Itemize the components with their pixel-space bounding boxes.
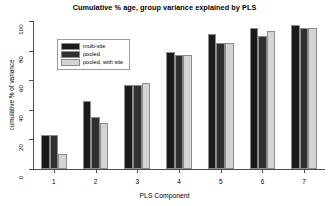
- x-tick-label: 2: [86, 178, 106, 185]
- x-axis-label: PLS Component: [0, 192, 329, 199]
- legend-item: pooled: [61, 51, 126, 58]
- legend-swatch-icon: [61, 43, 80, 50]
- legend-swatch-icon: [61, 59, 80, 66]
- y-tick-mark: [29, 169, 33, 170]
- bar: [258, 36, 267, 169]
- x-tick-label: 3: [127, 178, 147, 185]
- bar: [208, 34, 217, 169]
- bar: [50, 135, 59, 169]
- x-tick-label: 4: [169, 178, 189, 185]
- bar: [100, 123, 109, 169]
- y-tick-label: 60: [17, 81, 24, 97]
- legend-item: multi-site: [61, 43, 126, 50]
- legend-item-label: pooled, with site: [83, 59, 123, 66]
- y-tick-label: 80: [17, 51, 24, 67]
- legend-item: pooled, with site: [61, 59, 126, 66]
- y-tick-label: 20: [17, 140, 24, 156]
- legend-swatch-icon: [61, 51, 80, 58]
- y-axis-label: cumulative % of variance: [8, 67, 15, 131]
- x-tick-mark: [221, 169, 222, 173]
- bar: [166, 52, 175, 169]
- y-tick-label: 40: [17, 110, 24, 126]
- chart-figure: Cumulative % age, group variance explain…: [0, 0, 329, 206]
- x-tick-label: 7: [294, 178, 314, 185]
- bar: [175, 55, 184, 169]
- bar: [91, 117, 100, 169]
- bar: [183, 55, 192, 169]
- bar: [225, 43, 234, 169]
- x-tick-label: 5: [211, 178, 231, 185]
- x-tick-mark: [54, 169, 55, 173]
- bar: [308, 28, 317, 169]
- bar: [58, 154, 67, 169]
- bar: [133, 85, 142, 169]
- x-tick-label: 1: [44, 178, 64, 185]
- x-tick-mark: [179, 169, 180, 173]
- chart-title: Cumulative % age, group variance explain…: [0, 3, 329, 12]
- x-tick-label: 6: [252, 178, 272, 185]
- bar: [216, 43, 225, 169]
- y-tick-label: 100: [17, 22, 24, 38]
- bar: [142, 83, 151, 169]
- bar: [250, 28, 259, 169]
- x-tick-mark: [96, 169, 97, 173]
- y-tick-label: 0: [17, 170, 24, 186]
- x-tick-mark: [262, 169, 263, 173]
- bar: [83, 101, 92, 169]
- bar: [300, 28, 309, 169]
- bar: [291, 25, 300, 169]
- bar: [267, 31, 276, 169]
- legend-item-label: pooled: [83, 51, 100, 58]
- x-tick-mark: [137, 169, 138, 173]
- chart-legend: multi-sitepooledpooled, with site: [57, 39, 130, 70]
- bar: [41, 135, 50, 169]
- legend-item-label: multi-site: [83, 43, 105, 50]
- bar: [124, 85, 133, 169]
- x-tick-mark: [304, 169, 305, 173]
